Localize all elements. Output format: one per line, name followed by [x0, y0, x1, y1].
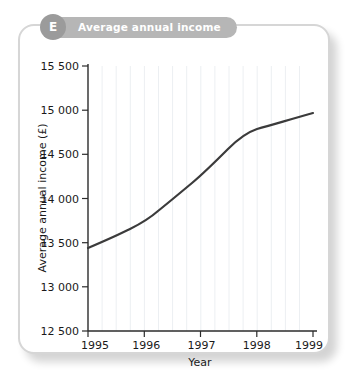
panel-title-banner: Average annual income [48, 17, 237, 38]
chart-card [18, 24, 330, 354]
screenshot-root: E Average annual income [0, 0, 361, 392]
panel-letter-badge: E [40, 14, 66, 40]
